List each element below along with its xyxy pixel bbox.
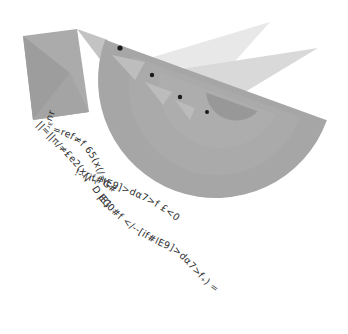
envelope	[23, 29, 89, 120]
eye-2	[150, 73, 154, 77]
eye-1	[117, 45, 122, 50]
eye-3	[178, 95, 182, 99]
illustration: =ref≠f 65(x(/=G# !--[if#IE9]>dα7>f £<00-…	[0, 0, 348, 334]
eye-4	[205, 110, 209, 114]
